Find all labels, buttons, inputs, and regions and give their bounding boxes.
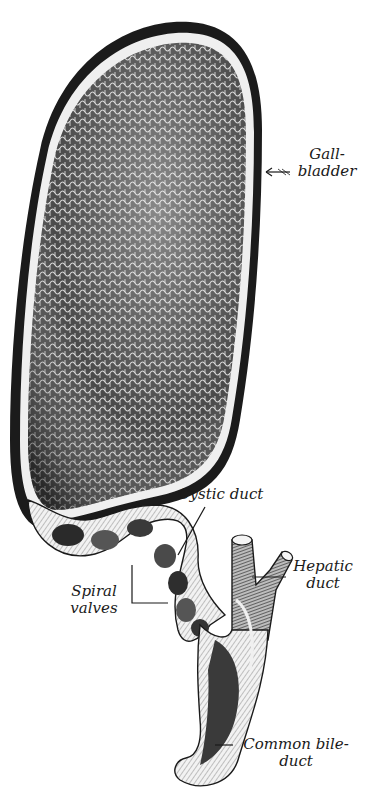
common-bile-duct-label-line2: duct bbox=[234, 753, 358, 770]
gallbladder-label-line1: Gall- bbox=[292, 146, 362, 163]
common-bile-duct-label-line1: Common bile- bbox=[234, 736, 358, 753]
cystic-duct-label: Cystic duct bbox=[178, 486, 263, 503]
hepatic-duct-label-line1: Hepatic bbox=[290, 558, 356, 575]
common-bile-duct-label: Common bile- duct bbox=[234, 736, 358, 770]
hepatic-duct bbox=[232, 535, 294, 640]
cystic-duct-label-line1: Cystic duct bbox=[178, 486, 263, 503]
spiral-valves-label-line2: valves bbox=[62, 600, 126, 617]
hepatic-duct-label-line2: duct bbox=[290, 575, 356, 592]
cystic-duct bbox=[28, 500, 225, 641]
spiral-valves-label: Spiral valves bbox=[62, 583, 126, 617]
gallbladder-label-line2: bladder bbox=[292, 163, 362, 180]
gallbladder-body bbox=[10, 22, 262, 530]
anatomy-diagram: Gall- bladder Cystic duct Hepatic duct S… bbox=[0, 0, 374, 796]
spiral-valves-label-line1: Spiral bbox=[62, 583, 126, 600]
gallbladder-label: Gall- bladder bbox=[292, 146, 362, 180]
gallbladder-illustration bbox=[0, 0, 374, 796]
hepatic-duct-label: Hepatic duct bbox=[290, 558, 356, 592]
spiral-valves-leader bbox=[132, 565, 168, 603]
